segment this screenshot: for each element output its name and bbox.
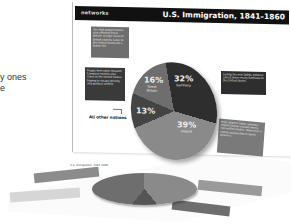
chart-title: U.S. Immigration, 1841–1860	[162, 10, 285, 22]
popup-page: networks U.S. Immigration, 1841–1860 The…	[72, 2, 291, 157]
base-pie-chart	[92, 173, 197, 205]
brand-logo: networks	[81, 9, 109, 16]
side-text: y ones e	[0, 72, 27, 94]
callout-great-britain: The Irish potato famine also affected Gr…	[91, 26, 129, 58]
pie-label-ireland: 39% Ireland	[177, 120, 196, 133]
title-banner: networks U.S. Immigration, 1841–1860	[75, 6, 289, 24]
arrow-icon	[113, 109, 122, 114]
callout-germany: During the mid-1800s, political unrest d…	[221, 71, 266, 95]
other-nations-label: All other nations	[89, 114, 127, 120]
side-text-line2: e	[0, 83, 27, 94]
pie-label-other: 13%	[136, 106, 155, 115]
pie-label-great-britain: 16% Great Britain	[144, 76, 160, 93]
callout-other-nations: People from other Western European natio…	[85, 67, 125, 101]
pie-label-germany: 32% Germany	[174, 74, 193, 87]
callout-ireland: From 1845 to 1850, Ireland's potato fami…	[217, 119, 265, 157]
side-text-line1: y ones	[0, 72, 27, 83]
